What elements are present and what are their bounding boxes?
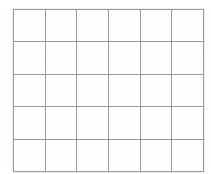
table-row (14, 107, 204, 139)
grid-cell-content (77, 75, 108, 106)
grid-cell-content (77, 10, 108, 41)
table-row (14, 139, 204, 171)
grid-cell[interactable] (14, 74, 46, 106)
grid-cell[interactable] (172, 107, 204, 139)
grid-cell-content (46, 140, 77, 171)
grid-cell[interactable] (14, 139, 46, 171)
grid-cell-content (172, 75, 203, 106)
grid-cell-content (46, 107, 77, 138)
grid-cell-content (141, 42, 172, 73)
grid-cell[interactable] (77, 42, 109, 74)
grid-cell[interactable] (45, 10, 77, 42)
grid-cell-content (109, 42, 140, 73)
grid-cell-content (109, 75, 140, 106)
grid-cell[interactable] (108, 107, 140, 139)
grid-cell[interactable] (45, 139, 77, 171)
grid-cell[interactable] (77, 107, 109, 139)
grid-cell[interactable] (45, 42, 77, 74)
grid-cell[interactable] (140, 139, 172, 171)
grid-cell-content (77, 42, 108, 73)
grid-cell[interactable] (172, 42, 204, 74)
grid-cell-content (14, 75, 45, 106)
grid-cell[interactable] (108, 74, 140, 106)
grid-table (13, 9, 204, 172)
grid-table-body (14, 10, 204, 172)
page-canvas (0, 0, 211, 174)
grid-cell-content (109, 10, 140, 41)
grid-cell[interactable] (172, 74, 204, 106)
grid-cell[interactable] (140, 42, 172, 74)
table-row (14, 42, 204, 74)
grid-cell-content (141, 140, 172, 171)
grid-cell[interactable] (14, 42, 46, 74)
grid-cell-content (77, 140, 108, 171)
grid-cell-content (172, 10, 203, 41)
table-row (14, 10, 204, 42)
grid-cell-content (141, 107, 172, 138)
grid-cell-content (46, 10, 77, 41)
grid-cell[interactable] (140, 74, 172, 106)
grid-cell-content (109, 140, 140, 171)
grid-cell[interactable] (45, 74, 77, 106)
grid-cell[interactable] (108, 10, 140, 42)
grid-cell[interactable] (140, 107, 172, 139)
grid-cell-content (77, 107, 108, 138)
grid-cell[interactable] (108, 42, 140, 74)
grid-cell[interactable] (108, 139, 140, 171)
grid-cell[interactable] (77, 139, 109, 171)
grid-cell[interactable] (172, 10, 204, 42)
grid-cell-content (172, 42, 203, 73)
grid-cell[interactable] (77, 74, 109, 106)
grid-cell-content (46, 42, 77, 73)
grid-cell[interactable] (172, 139, 204, 171)
grid-cell-content (172, 107, 203, 138)
grid-cell[interactable] (14, 107, 46, 139)
grid-cell-content (109, 107, 140, 138)
grid-cell-content (172, 140, 203, 171)
grid-cell-content (141, 10, 172, 41)
grid-cell-content (14, 42, 45, 73)
grid-cell[interactable] (140, 10, 172, 42)
grid-cell-content (46, 75, 77, 106)
grid-cell-content (14, 10, 45, 41)
table-row (14, 74, 204, 106)
grid-cell-content (14, 107, 45, 138)
grid-cell[interactable] (77, 10, 109, 42)
grid-cell[interactable] (14, 10, 46, 42)
grid-cell-content (14, 140, 45, 171)
grid-cell[interactable] (45, 107, 77, 139)
grid-cell-content (141, 75, 172, 106)
